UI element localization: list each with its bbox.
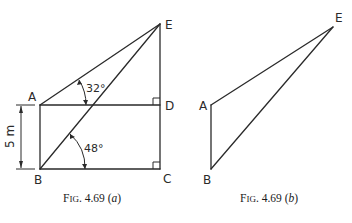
point-label-E-b: E (335, 11, 343, 25)
line-BE-b (211, 27, 333, 169)
angle-arc-B (70, 134, 85, 169)
diagram-canvas: 32° 48° 5 m A B C D E FIG. 4.69 (a) A B … (0, 0, 352, 223)
dimension-arrow-down-icon (19, 161, 23, 168)
angle-label-32: 32° (86, 82, 106, 95)
dimension-label: 5 m (3, 125, 17, 148)
point-label-C: C (163, 172, 171, 186)
line-AE-b (211, 27, 333, 105)
point-label-D: D (165, 99, 174, 113)
figure-caption-a: FIG. 4.69 (a) (63, 192, 121, 205)
point-label-B: B (34, 173, 42, 187)
point-label-A: A (28, 90, 37, 104)
right-angle-marker-C (153, 162, 160, 169)
point-label-A-b: A (199, 99, 208, 113)
angle-label-48: 48° (84, 142, 104, 155)
figure-caption-b: FIG. 4.69 (b) (240, 192, 298, 205)
arc-arrow-icon (82, 164, 87, 169)
point-label-E: E (165, 18, 173, 32)
point-label-B-b: B (203, 173, 211, 187)
figure-b: A B E FIG. 4.69 (b) (199, 11, 343, 205)
arc-arrow-icon (83, 100, 88, 105)
figure-a: 32° 48° 5 m A B C D E FIG. 4.69 (a) (3, 18, 174, 205)
dimension-arrow-up-icon (19, 106, 23, 113)
right-angle-marker-D (153, 98, 160, 105)
